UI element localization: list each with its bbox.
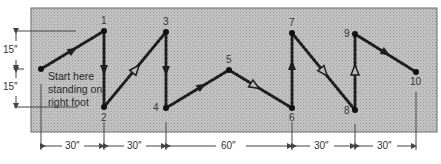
point-label-4: 4: [153, 103, 159, 113]
start-note-line: standing on: [48, 83, 102, 96]
dimension-label-vertical-2: 15″: [3, 82, 18, 92]
dimension-label-horizontal-5: 30″: [377, 141, 392, 151]
step-diagram: 1 2 3 4 5 6 7 8 9 10 Start here standing…: [0, 0, 441, 164]
dimension-label-vertical-1: 15″: [3, 45, 18, 55]
start-note-line: Start here: [48, 70, 102, 83]
dimension-label-horizontal-1: 30″: [65, 141, 80, 151]
point-label-10: 10: [410, 77, 421, 87]
point-label-9: 9: [344, 29, 350, 39]
start-instruction: Start here standing on right foot: [48, 70, 102, 109]
dimension-label-horizontal-2: 30″: [127, 141, 142, 151]
point-label-6: 6: [289, 113, 295, 123]
dimension-label-horizontal-4: 30″: [314, 141, 329, 151]
point-label-8: 8: [344, 106, 350, 116]
point-label-2: 2: [101, 113, 107, 123]
point-label-7: 7: [289, 18, 295, 28]
point-label-3: 3: [163, 17, 169, 27]
start-note-line: right foot: [48, 96, 102, 109]
dimension-label-horizontal-3: 60″: [221, 141, 236, 151]
point-label-1: 1: [101, 16, 107, 26]
point-label-5: 5: [226, 55, 232, 65]
